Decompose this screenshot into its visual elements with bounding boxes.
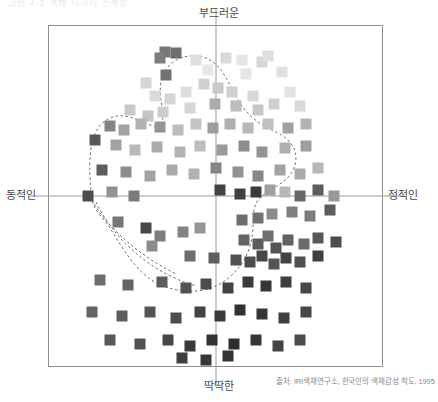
data-point	[165, 94, 176, 105]
data-point	[257, 251, 268, 262]
data-point	[215, 185, 226, 196]
data-point	[301, 141, 312, 152]
data-point	[305, 211, 316, 222]
data-point	[111, 140, 122, 151]
data-point	[150, 91, 161, 102]
data-point	[211, 163, 222, 174]
data-point	[123, 280, 134, 291]
data-point	[83, 191, 94, 202]
data-point	[185, 251, 196, 262]
axis-label-right: 정적인	[388, 186, 419, 202]
data-point	[295, 101, 306, 112]
data-point	[231, 255, 242, 266]
data-point	[301, 307, 312, 318]
data-point	[281, 253, 292, 264]
data-point	[185, 341, 196, 352]
data-point	[181, 283, 192, 294]
data-point	[213, 83, 224, 94]
data-point	[217, 145, 228, 156]
data-point	[173, 125, 184, 136]
data-point	[208, 123, 219, 134]
data-point	[178, 227, 189, 238]
data-point	[233, 167, 244, 178]
data-point	[97, 165, 108, 176]
data-point	[191, 55, 202, 66]
data-point	[158, 107, 169, 118]
data-point	[195, 141, 206, 152]
data-point	[135, 339, 146, 350]
data-point	[136, 119, 147, 130]
data-point	[171, 313, 182, 324]
scatter-overlay	[0, 0, 438, 402]
data-point	[245, 257, 256, 268]
data-point	[229, 339, 240, 350]
data-point	[295, 335, 306, 346]
data-point	[177, 353, 188, 364]
data-point	[181, 87, 192, 98]
data-point	[243, 277, 254, 288]
data-point	[283, 123, 294, 134]
data-point	[121, 167, 132, 178]
data-point	[167, 165, 178, 176]
data-point	[221, 53, 232, 64]
data-point	[261, 281, 272, 292]
data-point	[253, 105, 264, 116]
data-point	[263, 51, 274, 62]
data-point	[277, 67, 288, 78]
data-point	[195, 307, 206, 318]
data-point	[313, 163, 324, 174]
color-image-scale-figure: 그림 4-2 색채 이미지 스케일 부드러운 딱딱한 동적인 정적인 출처: I…	[0, 0, 438, 402]
data-point	[263, 231, 274, 242]
data-point	[301, 283, 312, 294]
data-point	[227, 87, 238, 98]
data-point	[253, 239, 264, 250]
data-point	[313, 251, 324, 262]
data-point	[152, 142, 163, 153]
data-point	[235, 305, 246, 316]
data-point	[155, 122, 166, 133]
data-point	[125, 105, 136, 116]
source-citation: 출처: IRI색채연구소, 한국인의 색채감성 척도, 1995	[276, 375, 435, 386]
data-point	[185, 103, 196, 114]
data-point	[231, 101, 242, 112]
data-point	[225, 119, 236, 130]
data-point	[163, 335, 174, 346]
data-point	[215, 311, 226, 322]
data-point	[257, 309, 268, 320]
data-point	[271, 243, 282, 254]
data-point	[117, 311, 128, 322]
data-point	[251, 335, 262, 346]
data-point	[107, 187, 118, 198]
data-point	[161, 70, 172, 81]
data-point	[251, 187, 262, 198]
data-point	[313, 185, 324, 196]
data-point	[223, 351, 234, 362]
hull-inner-tail	[96, 202, 196, 286]
data-point	[287, 207, 298, 218]
data-point	[267, 209, 278, 220]
data-point	[325, 205, 336, 216]
data-point	[313, 233, 324, 244]
data-point	[283, 235, 294, 246]
data-point	[155, 231, 166, 242]
data-point	[105, 121, 116, 132]
data-point	[141, 78, 152, 89]
data-point	[285, 87, 296, 98]
data-point	[223, 283, 234, 294]
data-points	[83, 47, 342, 366]
data-point	[273, 341, 284, 352]
data-point	[175, 147, 186, 158]
data-point	[130, 145, 141, 156]
data-point	[243, 123, 254, 134]
data-point	[241, 69, 252, 80]
data-point	[199, 79, 210, 90]
data-point	[235, 189, 246, 200]
data-point	[279, 313, 290, 324]
data-point	[299, 239, 310, 250]
data-point	[301, 119, 312, 130]
data-point	[253, 213, 264, 224]
data-point	[269, 99, 280, 110]
data-point	[295, 191, 306, 202]
data-point	[331, 237, 342, 248]
data-point	[141, 223, 152, 234]
